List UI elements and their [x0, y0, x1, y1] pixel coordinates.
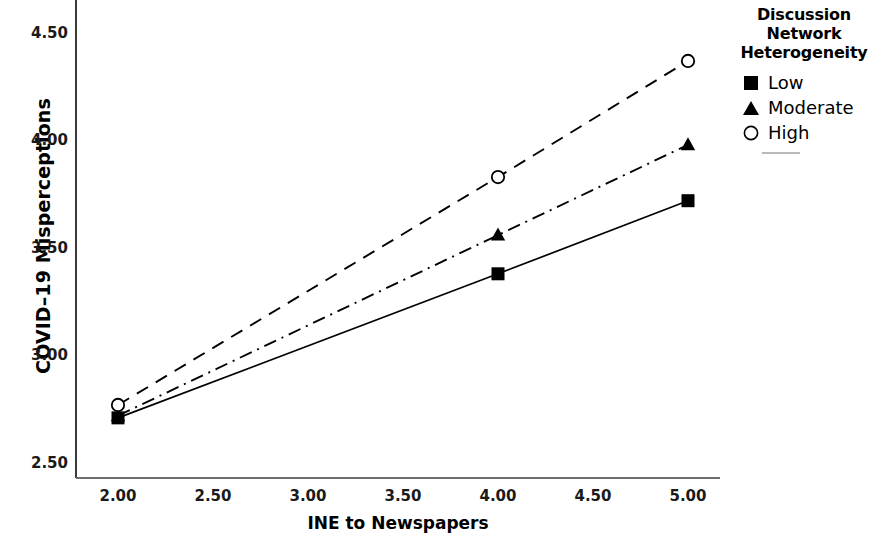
legend-items: Low Moderate High: [716, 71, 892, 154]
x-tick-label: 5.00: [653, 487, 723, 505]
chart-figure: COVID–19 Misperceptions 4.50 4.00 3.50 3…: [0, 0, 892, 545]
series-high: [112, 55, 694, 411]
series-line: [118, 61, 688, 405]
marker-filled-square: [682, 194, 695, 207]
series-line: [118, 145, 688, 416]
x-tick-label: 2.50: [178, 487, 248, 505]
series-line: [118, 201, 688, 418]
x-tick-label: 3.50: [368, 487, 438, 505]
legend-title-line: Heterogeneity: [716, 44, 892, 63]
x-tick-label: 3.00: [273, 487, 343, 505]
legend-title-line: Network: [716, 25, 892, 44]
legend-item-label: Low: [768, 74, 803, 92]
legend-item-high: High: [738, 121, 892, 146]
x-axis-label: INE to Newspapers: [76, 513, 720, 533]
legend-title: Discussion Network Heterogeneity: [716, 6, 892, 63]
y-tick-label: 4.50: [12, 24, 68, 42]
legend: Discussion Network Heterogeneity Low Mod…: [716, 6, 892, 154]
legend-title-line: Discussion: [716, 6, 892, 25]
series-low: [112, 194, 695, 424]
x-tick-label: 2.00: [83, 487, 153, 505]
legend-fit-line-icon: [762, 152, 800, 154]
marker-open-circle: [682, 55, 694, 67]
legend-item-low: Low: [738, 71, 892, 96]
marker-filled-triangle: [491, 228, 505, 241]
legend-item-label: Moderate: [768, 99, 854, 117]
filled-triangle-icon: [738, 99, 764, 117]
x-tick-label: 4.50: [558, 487, 628, 505]
marker-filled-triangle: [111, 408, 125, 421]
x-tick-label: 4.00: [463, 487, 533, 505]
legend-item-moderate: Moderate: [738, 96, 892, 121]
y-tick-label: 4.00: [12, 131, 68, 149]
y-axis-tick-labels: 4.50 4.00 3.50 3.00 2.50: [0, 0, 68, 545]
y-tick-label: 3.00: [12, 346, 68, 364]
filled-square-icon: [738, 74, 764, 92]
series-moderate: [111, 137, 695, 421]
marker-open-circle: [492, 171, 504, 183]
open-circle-icon: [738, 124, 764, 142]
legend-item-label: High: [768, 124, 809, 142]
marker-open-circle: [112, 399, 124, 411]
y-tick-label: 3.50: [12, 239, 68, 257]
marker-filled-triangle: [681, 137, 695, 150]
marker-filled-square: [112, 411, 125, 424]
y-tick-label: 2.50: [12, 454, 68, 472]
marker-filled-square: [492, 267, 505, 280]
